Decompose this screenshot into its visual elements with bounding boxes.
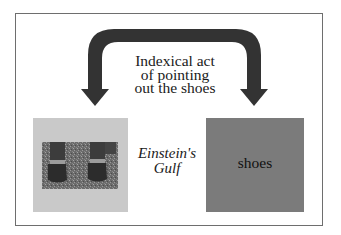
caption-line: out the shoes xyxy=(115,81,235,95)
feet-photo-icon xyxy=(42,142,118,189)
gulf-label-line: Gulf xyxy=(128,161,206,176)
shoes-word-label: shoes xyxy=(238,154,272,172)
shoes-word-panel: shoes xyxy=(206,118,304,212)
indexical-act-caption: Indexical act of pointing out the shoes xyxy=(115,54,235,95)
einsteins-gulf-label: Einstein's Gulf xyxy=(128,146,206,176)
shoes-photo xyxy=(42,142,118,189)
gulf-label-line: Einstein's xyxy=(128,146,206,161)
shoes-photo-panel xyxy=(33,118,128,212)
